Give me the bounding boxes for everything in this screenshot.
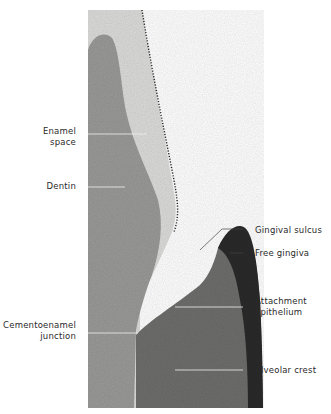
label-dentin: Dentin [47, 181, 76, 192]
label-enamel-space: Enamel space [43, 126, 76, 148]
label-cementoenamel-junction: Cementoenamel junction [3, 320, 76, 342]
label-gingival-sulcus: Gingival sulcus [255, 225, 322, 236]
histology-figure: Enamel space Dentin Cementoenamel juncti… [0, 0, 331, 414]
label-attachment-epithelium: Attachment epithelium [255, 296, 307, 318]
label-alveolar-crest: Alveolar crest [255, 365, 316, 376]
label-free-gingiva: Free gingiva [255, 248, 309, 259]
micrograph-image [0, 0, 331, 414]
